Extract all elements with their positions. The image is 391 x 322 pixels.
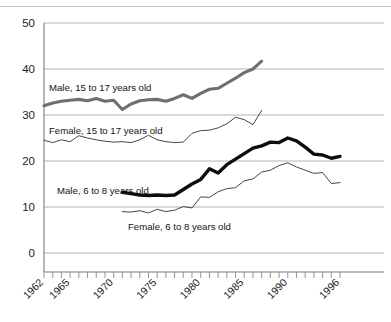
x-axis-tick-label: 1965 xyxy=(47,276,72,301)
y-axis-tick-label: 30 xyxy=(22,109,35,121)
label-male-child: Male, 6 to 8 years old xyxy=(57,185,149,196)
x-axis-tick-label: 1975 xyxy=(134,276,159,301)
y-axis-tick-label: 20 xyxy=(22,155,35,167)
x-axis-tick-group: 1980 xyxy=(177,276,202,301)
line-chart: 0102030405019621965197019751980198519901… xyxy=(0,0,391,322)
series-male-child xyxy=(122,138,340,196)
chart-container: 0102030405019621965197019751980198519901… xyxy=(0,0,391,322)
x-axis-tick-label: 1985 xyxy=(221,276,246,301)
y-axis-tick-label: 40 xyxy=(22,63,35,75)
y-axis-tick-label: 10 xyxy=(22,201,35,213)
x-axis-tick-group: 1975 xyxy=(134,276,159,301)
x-axis-tick-group: 1996 xyxy=(316,276,341,301)
x-axis-tick-group: 1962 xyxy=(20,276,45,301)
y-axis-tick-label: 0 xyxy=(29,247,35,259)
x-axis-tick-group: 1965 xyxy=(47,276,72,301)
x-axis-tick-group: 1970 xyxy=(90,276,115,301)
label-female-child: Female, 6 to 8 years old xyxy=(128,221,231,232)
x-axis-tick-label: 1962 xyxy=(20,276,45,301)
label-male-teen: Male, 15 to 17 years old xyxy=(49,82,151,93)
y-axis-tick-label: 50 xyxy=(22,17,35,29)
x-axis-tick-label: 1990 xyxy=(264,276,289,301)
x-axis-tick-label: 1980 xyxy=(177,276,202,301)
x-axis-tick-group: 1985 xyxy=(221,276,246,301)
series-female-child xyxy=(122,163,340,213)
x-axis-tick-label: 1970 xyxy=(90,276,115,301)
label-female-teen: Female, 15 to 17 years old xyxy=(49,125,163,136)
x-axis-tick-group: 1990 xyxy=(264,276,289,301)
x-axis-tick-label: 1996 xyxy=(316,276,341,301)
